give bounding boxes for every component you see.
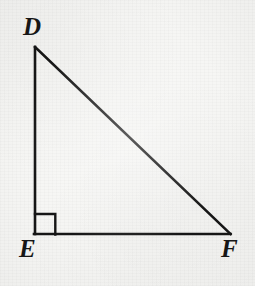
vertex-label-E: E bbox=[19, 236, 36, 261]
vertex-label-D: D bbox=[23, 14, 41, 39]
geometry-figure: D E F bbox=[0, 0, 255, 286]
triangle-drawing bbox=[0, 0, 255, 286]
right-angle-square-icon bbox=[35, 214, 55, 235]
vertex-label-F: F bbox=[221, 236, 238, 261]
side-DF-hypotenuse bbox=[35, 47, 231, 234]
